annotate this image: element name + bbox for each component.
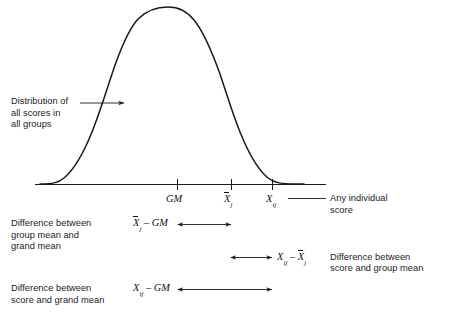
- individual-score-label-line2: score: [330, 205, 353, 217]
- score-subscript: ij: [272, 201, 276, 209]
- individual-score-label-line1: Any individual: [330, 193, 388, 205]
- difference3-expression: Xij–GM: [133, 282, 170, 293]
- difference1-description-line1: Difference between: [11, 218, 91, 230]
- difference3-right-gm: GM: [154, 282, 170, 293]
- difference2-right-subscript: j: [304, 259, 306, 267]
- difference3-description-line2: score and grand mean: [11, 295, 104, 307]
- tick-label-individual-score: Xij: [266, 193, 276, 204]
- tick-label-group-mean: Xj: [224, 193, 232, 204]
- difference1-right-gm: GM: [152, 217, 168, 228]
- grand-mean-symbol: GM: [166, 193, 182, 204]
- distribution-callout-line1: Distribution of: [11, 96, 68, 108]
- difference1-expression: Xj–GM: [133, 217, 168, 228]
- difference2-minus: –: [287, 251, 297, 262]
- difference1-description-line3: grand mean: [11, 241, 61, 253]
- distribution-callout-line2: all scores in: [11, 108, 60, 120]
- difference2-description-line1: Difference between: [330, 252, 410, 264]
- difference3-left-subscript: ij: [139, 290, 143, 298]
- normal-distribution-curve: [40, 7, 304, 184]
- distribution-callout-line3: all groups: [11, 119, 52, 131]
- difference1-minus: –: [141, 217, 151, 228]
- difference2-description-line2: score and group mean: [330, 263, 423, 275]
- difference1-description-line2: group mean and: [11, 230, 79, 242]
- difference2-expression: Xij–Xj: [277, 251, 306, 262]
- difference2-left-subscript: ij: [283, 259, 287, 267]
- difference3-minus: –: [143, 282, 153, 293]
- tick-label-grand-mean: GM: [166, 193, 182, 204]
- difference3-description-line1: Difference between: [11, 283, 91, 295]
